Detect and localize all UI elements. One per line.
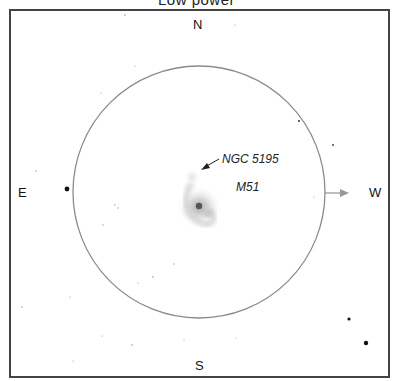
star [298,120,300,122]
star [332,144,334,146]
label-m51: M51 [236,180,259,194]
m51-galaxy [177,183,221,227]
direction-west: W [369,185,381,200]
star [347,317,350,320]
star [65,187,70,192]
label-ngc5195: NGC 5195 [222,152,279,166]
direction-north: N [193,17,202,32]
direction-south: S [195,358,204,373]
west-drift-arrow [325,189,349,197]
companion-pointer-arrow [201,159,219,170]
ngc5195-companion [186,171,198,183]
star-field [0,0,393,381]
direction-east: E [18,185,27,200]
star [364,341,368,345]
